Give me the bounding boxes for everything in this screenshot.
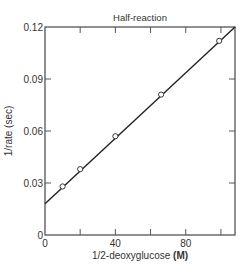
x-tick-label: 80: [180, 238, 192, 249]
lineweaver-burk-plot: Half-reaction 0408000.030.060.090.12 1/2…: [0, 0, 248, 274]
plot-frame: [45, 27, 235, 235]
data-point-marker: [159, 92, 164, 97]
chart-title: Half-reaction: [113, 12, 167, 23]
y-tick-label: 0.03: [24, 178, 44, 189]
data-point-marker: [217, 38, 222, 43]
x-axis-unit: (M): [173, 250, 188, 261]
y-tick-label: 0.06: [24, 126, 44, 137]
y-tick-label: 0: [37, 230, 43, 241]
fit-line: [45, 27, 235, 204]
y-tick-label: 0.09: [24, 74, 44, 85]
y-tick-label: 0.12: [24, 22, 44, 33]
data-point-marker: [60, 184, 65, 189]
y-axis-label: 1/rate (sec): [3, 106, 14, 157]
axes-frame: [45, 27, 235, 235]
x-tick-label: 40: [110, 238, 122, 249]
data-point-marker: [78, 167, 83, 172]
axis-ticks: [45, 27, 235, 235]
chart-container: Half-reaction 0408000.030.060.090.12 1/2…: [0, 0, 248, 274]
linear-fit-line: [45, 27, 235, 204]
x-tick-label: 0: [42, 238, 48, 249]
tick-labels: 0408000.030.060.090.12: [24, 22, 192, 250]
x-axis-label-text: 1/2-deoxyglucose: [92, 250, 171, 261]
data-point-marker: [113, 134, 118, 139]
x-axis-label: 1/2-deoxyglucose (M): [92, 250, 188, 261]
